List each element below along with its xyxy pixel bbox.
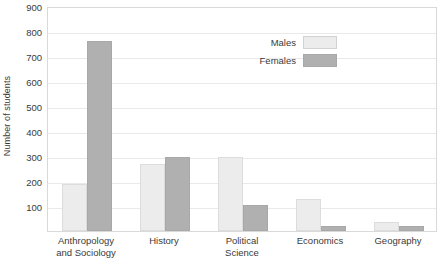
x-axis-tick-labels: Anthropologyand SociologyHistoryPolitica…	[47, 235, 437, 263]
y-tick-label: 600	[26, 77, 42, 88]
bar-females[interactable]	[399, 226, 424, 231]
y-tick-label: 800	[26, 27, 42, 38]
y-axis-title-text: Number of students	[2, 76, 12, 156]
x-tick-label: Geography	[359, 235, 437, 247]
y-tick-label: 700	[26, 52, 42, 63]
bar-group	[62, 8, 112, 231]
bar-males[interactable]	[296, 199, 321, 231]
y-tick-label: 400	[26, 127, 42, 138]
legend-swatch-females	[303, 54, 337, 67]
bar-group	[140, 8, 190, 231]
legend-label: Males	[250, 37, 296, 48]
legend-swatch-males	[303, 36, 337, 49]
bar-females[interactable]	[87, 41, 112, 231]
bar-females[interactable]	[165, 157, 190, 232]
x-tick-label-line: Political	[203, 235, 281, 247]
y-axis-title: Number of students	[0, 0, 14, 232]
x-tick-label-line: Economics	[281, 235, 359, 247]
y-tick-label: 500	[26, 102, 42, 113]
x-tick-label-line: and Sociology	[47, 247, 125, 259]
bar-group	[374, 8, 424, 231]
x-tick-label: Economics	[281, 235, 359, 247]
bar-males[interactable]	[374, 222, 399, 231]
y-tick-label: 300	[26, 152, 42, 163]
legend-label: Females	[250, 55, 296, 66]
x-tick-label-line: Science	[203, 247, 281, 259]
x-tick-label: PoliticalScience	[203, 235, 281, 258]
bar-females[interactable]	[321, 226, 346, 231]
bar-males[interactable]	[140, 164, 165, 232]
y-axis-tick-labels: 100200300400500600700800900	[14, 0, 46, 240]
legend: MalesFemales	[250, 36, 337, 67]
bar-males[interactable]	[62, 184, 87, 232]
legend-item[interactable]: Females	[250, 54, 337, 67]
y-tick-label: 200	[26, 177, 42, 188]
bars-layer	[48, 8, 436, 231]
legend-item[interactable]: Males	[250, 36, 337, 49]
x-tick-label-line: Anthropology	[47, 235, 125, 247]
x-tick-label: Anthropologyand Sociology	[47, 235, 125, 258]
bar-males[interactable]	[218, 157, 243, 231]
x-tick-label-line: Geography	[359, 235, 437, 247]
bar-females[interactable]	[243, 205, 268, 231]
bar-chart: Number of students 100200300400500600700…	[0, 0, 444, 263]
y-tick-label: 100	[26, 202, 42, 213]
x-tick-label-line: History	[125, 235, 203, 247]
x-tick-label: History	[125, 235, 203, 247]
plot-area	[47, 7, 437, 232]
y-tick-label: 900	[26, 2, 42, 13]
